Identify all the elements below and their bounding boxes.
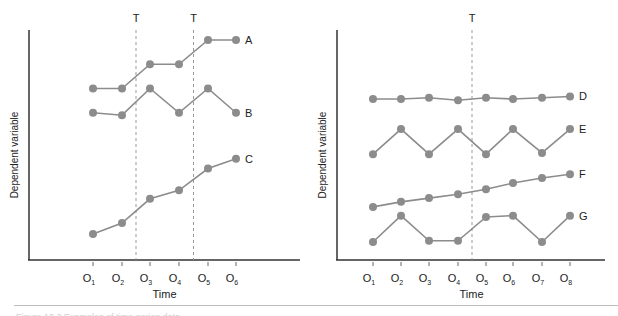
series-label: C xyxy=(245,153,253,165)
series-line-a xyxy=(93,40,236,89)
x-tick-label: O3 xyxy=(419,272,432,286)
series-label: G xyxy=(579,210,588,222)
data-point xyxy=(204,36,212,44)
data-point xyxy=(454,96,462,104)
figure-caption: Figure 10.3 Examples of time-series data xyxy=(16,310,180,316)
x-tick-label: O8 xyxy=(560,272,573,286)
data-point xyxy=(175,186,183,194)
data-point xyxy=(369,238,377,246)
series-label: B xyxy=(245,107,252,119)
data-point xyxy=(425,237,433,245)
data-point xyxy=(232,109,240,117)
series-line-b xyxy=(93,89,236,116)
x-tick-label: O1 xyxy=(363,272,376,286)
right-chart: Dependent variableO1O2O3O4O5O6O7O8TimeTD… xyxy=(317,12,605,300)
series-line-c xyxy=(93,159,236,234)
data-point xyxy=(89,109,97,117)
x-tick-label: O5 xyxy=(476,272,489,286)
data-point xyxy=(397,198,405,206)
y-axis-label: Dependent variable xyxy=(9,111,20,198)
data-point xyxy=(204,85,212,93)
data-point xyxy=(482,94,490,102)
treatment-label: T xyxy=(133,12,140,24)
data-point xyxy=(89,230,97,238)
data-point xyxy=(538,174,546,182)
data-point xyxy=(509,212,517,220)
data-point xyxy=(538,94,546,102)
data-point xyxy=(482,185,490,193)
series-label: A xyxy=(245,34,253,46)
time-series-figure: Dependent variableO1O2O3O4O5O6TimeTTABC … xyxy=(0,0,618,316)
series-label: F xyxy=(579,168,586,180)
treatment-label: T xyxy=(190,12,197,24)
x-tick-label: O5 xyxy=(198,272,211,286)
series-label: D xyxy=(579,90,587,102)
data-point xyxy=(175,60,183,68)
data-point xyxy=(538,149,546,157)
series-label: E xyxy=(579,123,586,135)
data-point xyxy=(232,155,240,163)
data-point xyxy=(425,194,433,202)
caption-divider xyxy=(14,305,618,306)
data-point xyxy=(509,179,517,187)
data-point xyxy=(89,85,97,93)
x-tick-label: O6 xyxy=(503,272,516,286)
data-point xyxy=(566,212,574,220)
x-tick-label: O7 xyxy=(532,272,545,286)
x-tick-label: O4 xyxy=(169,272,182,286)
data-point xyxy=(566,170,574,178)
data-point xyxy=(454,190,462,198)
treatment-label: T xyxy=(469,12,476,24)
x-tick-label: O4 xyxy=(448,272,461,286)
x-tick-label: O2 xyxy=(112,272,125,286)
data-point xyxy=(509,95,517,103)
data-point xyxy=(369,95,377,103)
data-point xyxy=(175,109,183,117)
x-tick-label: O3 xyxy=(140,272,153,286)
data-point xyxy=(482,213,490,221)
data-point xyxy=(397,125,405,133)
data-point xyxy=(538,238,546,246)
data-point xyxy=(454,125,462,133)
data-point xyxy=(566,125,574,133)
data-point xyxy=(425,94,433,102)
data-point xyxy=(397,95,405,103)
data-point xyxy=(397,212,405,220)
data-point xyxy=(204,165,212,173)
left-chart: Dependent variableO1O2O3O4O5O6TimeTTABC xyxy=(9,12,300,300)
data-point xyxy=(369,203,377,211)
data-point xyxy=(146,195,154,203)
data-point xyxy=(454,237,462,245)
x-axis-label: Time xyxy=(152,288,176,300)
x-tick-label: O1 xyxy=(83,272,96,286)
data-point xyxy=(146,85,154,93)
data-point xyxy=(566,92,574,100)
data-point xyxy=(369,150,377,158)
data-point xyxy=(482,150,490,158)
data-point xyxy=(118,111,126,119)
series-line-g xyxy=(373,216,570,242)
x-axis-label: Time xyxy=(459,288,483,300)
x-tick-label: O6 xyxy=(226,272,239,286)
data-point xyxy=(118,85,126,93)
data-point xyxy=(509,125,517,133)
data-point xyxy=(425,150,433,158)
data-point xyxy=(118,219,126,227)
y-axis-label: Dependent variable xyxy=(317,111,328,198)
x-tick-label: O2 xyxy=(391,272,404,286)
data-point xyxy=(146,60,154,68)
data-point xyxy=(232,36,240,44)
